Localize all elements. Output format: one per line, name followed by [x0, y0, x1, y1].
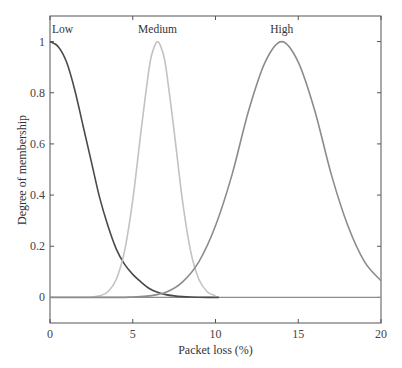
x-tick-label: 5	[130, 327, 136, 341]
x-tick-label: 0	[47, 327, 53, 341]
curve-label-high: High	[270, 23, 293, 36]
membership-chart: 0510152000.20.40.60.81 LowMediumHigh Pac…	[0, 0, 402, 368]
x-tick-label: 10	[210, 327, 222, 341]
y-tick-label: 0.4	[30, 188, 45, 202]
curve-medium	[91, 42, 215, 298]
plot-border	[50, 16, 381, 323]
x-axis-label: Packet loss (%)	[178, 343, 253, 357]
y-tick-label: 0	[39, 290, 45, 304]
curve-high	[50, 42, 381, 298]
membership-curves	[50, 42, 381, 298]
curve-label-low: Low	[52, 23, 74, 35]
curve-label-medium: Medium	[138, 23, 177, 35]
y-tick-label: 0.8	[30, 86, 45, 100]
x-tick-label: 15	[292, 327, 304, 341]
curve-low	[50, 42, 219, 298]
y-tick-label: 1	[39, 35, 45, 49]
y-tick-label: 0.2	[30, 239, 45, 253]
curve-labels: LowMediumHigh	[52, 23, 293, 36]
y-tick-label: 0.6	[30, 137, 45, 151]
x-tick-label: 20	[375, 327, 387, 341]
y-axis-label: Degree of membership	[15, 115, 29, 225]
plot-frame	[50, 16, 381, 323]
